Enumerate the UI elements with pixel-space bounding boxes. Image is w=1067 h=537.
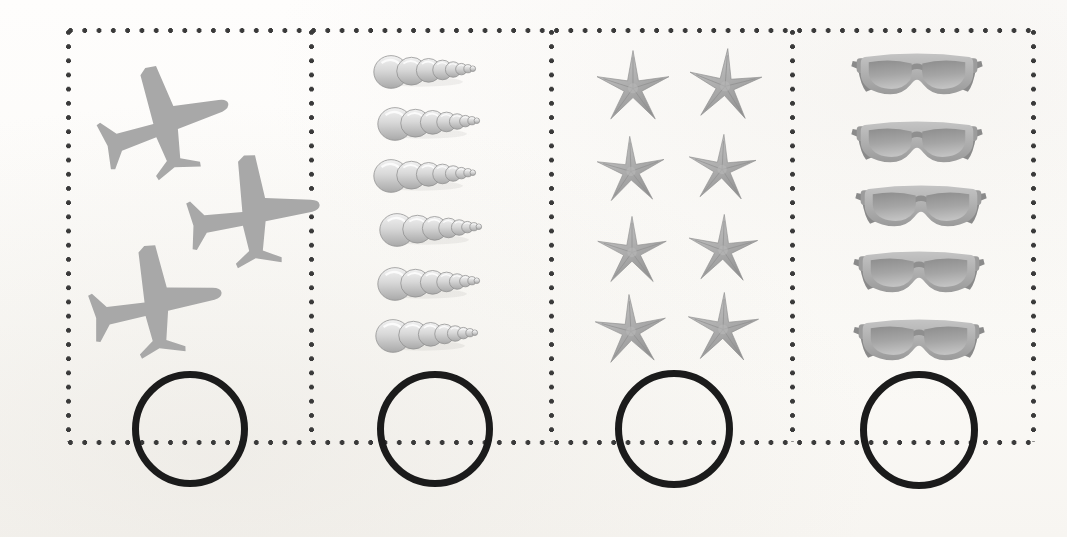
starfish-icon bbox=[680, 211, 767, 294]
counting-worksheet bbox=[0, 0, 1067, 537]
starfish-icon bbox=[678, 288, 769, 373]
answer-circle-starfish[interactable] bbox=[615, 370, 733, 488]
sunglasses-icon bbox=[852, 316, 986, 378]
sunglasses-icon bbox=[854, 182, 988, 244]
seashell-icon bbox=[373, 52, 481, 92]
sunglasses-icon bbox=[850, 50, 984, 112]
sunglasses-icon bbox=[852, 248, 986, 310]
starfish-icon bbox=[678, 43, 772, 133]
answer-circle-seashell[interactable] bbox=[377, 371, 493, 487]
airplane-icon bbox=[79, 227, 233, 367]
answer-circle-airplane[interactable] bbox=[132, 371, 248, 487]
starfish-icon bbox=[679, 130, 765, 212]
starfish-icon bbox=[589, 48, 677, 132]
sunglasses-icon bbox=[850, 118, 984, 180]
starfish-icon bbox=[590, 133, 673, 214]
seashell-icon bbox=[379, 210, 487, 250]
seashell-icon bbox=[373, 156, 481, 196]
seashell-icon bbox=[377, 264, 485, 304]
answer-circle-sunglasses[interactable] bbox=[860, 371, 978, 489]
starfish-icon bbox=[585, 290, 677, 376]
seashell-icon bbox=[377, 104, 485, 144]
starfish-icon bbox=[589, 214, 675, 294]
seashell-icon bbox=[375, 316, 483, 356]
